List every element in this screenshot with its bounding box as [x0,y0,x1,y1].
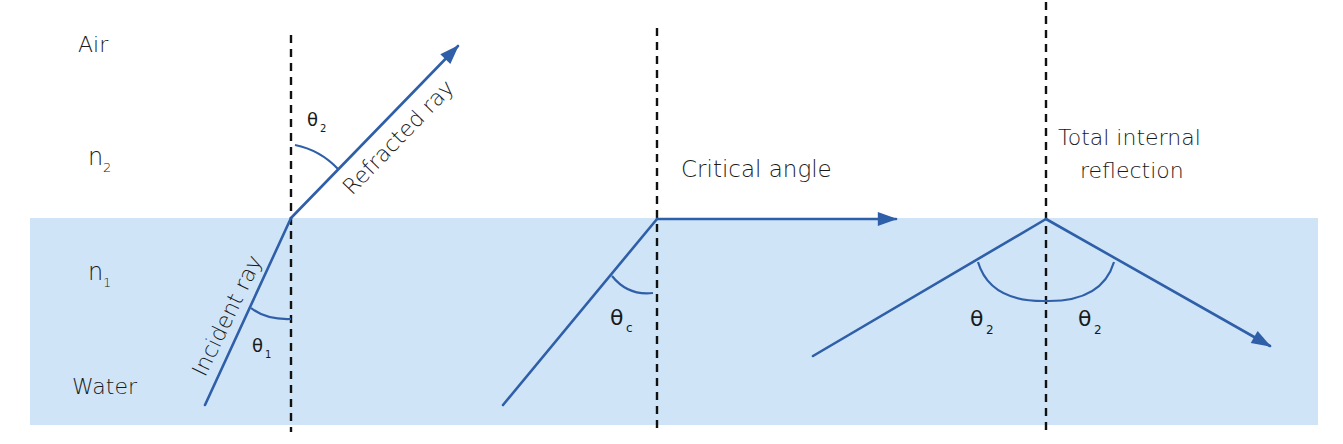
air-label: Air [78,32,109,57]
svg-text:1: 1 [103,275,111,290]
refracted-ray-label: Refracted ray [338,75,459,199]
refracted-ray [291,46,458,218]
refraction-diagram: Air n 2 n 1 Water Incident ray Refracted… [0,0,1343,444]
svg-text:1: 1 [265,349,271,360]
svg-text:2: 2 [103,160,111,175]
svg-text:n: n [88,258,103,286]
svg-text:n: n [88,143,103,171]
tir-title-line2: reflection [1080,158,1184,183]
tir-title-line1: Total internal [1058,125,1201,150]
water-label: Water [72,374,138,399]
svg-text:2: 2 [1094,323,1102,337]
svg-text:2: 2 [320,123,326,134]
svg-text:c: c [626,321,633,335]
angle-arc-theta2 [295,145,338,169]
svg-text:2: 2 [986,323,994,337]
theta2-label: θ 2 [307,109,326,134]
svg-text:θ: θ [970,306,983,331]
svg-text:θ: θ [252,335,263,356]
n2-label: n 2 [88,143,111,175]
svg-text:θ: θ [610,305,623,330]
svg-text:θ: θ [307,109,318,130]
critical-angle-title: Critical angle [681,156,832,182]
svg-text:θ: θ [1078,306,1091,331]
